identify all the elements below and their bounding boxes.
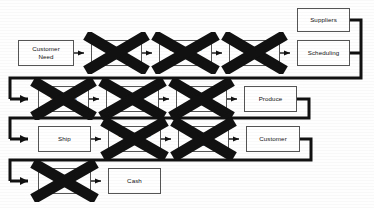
node-receiving-inspection[interactable]: Receiving Inspection	[106, 86, 159, 112]
node-distribution-entity[interactable]: Distribution Entity	[159, 40, 212, 66]
process-flow-diagram: Customer Need Order Distribution Entity …	[0, 0, 374, 208]
node-customer-need[interactable]: Customer Need	[18, 40, 74, 66]
node-suppliers-row2[interactable]: Suppliers	[38, 86, 89, 112]
node-label: Customer Need	[32, 45, 60, 61]
node-distribution-center[interactable]: Distribution Center	[108, 126, 161, 152]
node-label: Suppliers	[310, 16, 337, 24]
node-label: Suppliers	[50, 95, 77, 103]
node-order-1[interactable]: Order	[91, 40, 142, 66]
node-label: Order	[246, 49, 262, 57]
node-invoice[interactable]: Invoice	[38, 168, 91, 194]
node-label: Receiving Inspection	[118, 91, 147, 107]
node-ship[interactable]: Ship	[38, 126, 91, 152]
node-label: Invoice	[54, 177, 74, 185]
node-cash[interactable]: Cash	[108, 168, 161, 194]
node-scheduling[interactable]: Scheduling	[297, 40, 350, 66]
node-delivery[interactable]: Deliver y	[178, 126, 229, 152]
node-suppliers-top[interactable]: Suppliers	[297, 8, 350, 32]
node-label: Cash	[127, 177, 142, 185]
node-label: Ship	[58, 135, 71, 143]
node-label: Deliver y	[194, 131, 214, 147]
node-order-2[interactable]: Order	[229, 40, 280, 66]
node-store[interactable]: Store	[176, 86, 227, 112]
node-label: Distribution Center	[118, 131, 150, 147]
node-produce[interactable]: Produce	[244, 86, 297, 112]
node-customer[interactable]: Customer	[246, 126, 300, 152]
node-label: Scheduling	[308, 49, 340, 57]
node-label: Produce	[259, 95, 283, 103]
node-label: Store	[194, 95, 209, 103]
node-label: Order	[108, 49, 124, 57]
node-label: Distribution Entity	[169, 45, 201, 61]
node-label: Customer	[259, 135, 287, 143]
